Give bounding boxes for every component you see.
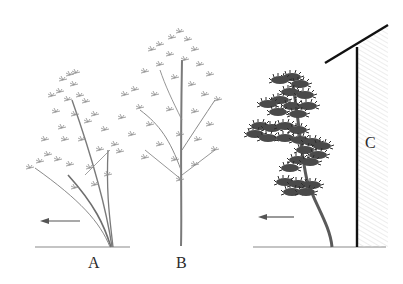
arrow-left-icon <box>40 218 80 224</box>
label-a: A <box>88 255 100 271</box>
tree-a <box>26 69 130 247</box>
arrow-left-icon <box>258 214 294 220</box>
diagram-canvas <box>0 0 403 284</box>
label-b: B <box>176 255 187 271</box>
label-c: C <box>365 135 376 151</box>
tree-b <box>118 28 222 246</box>
